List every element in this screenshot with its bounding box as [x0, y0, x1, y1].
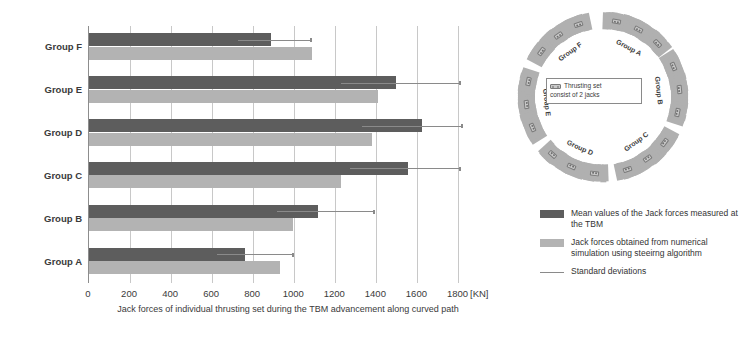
- x-tick-label: 1000: [283, 288, 304, 299]
- x-tick-label: 1600: [406, 288, 427, 299]
- ring-note-line2: consist of 2 jacks: [550, 91, 600, 98]
- chart-row: [89, 112, 478, 155]
- x-axis-title: Jack forces of individual thrusting set …: [88, 304, 488, 314]
- figure-root: Group FGroup EGroup DGroup CGroup BGroup…: [0, 0, 742, 340]
- error-bar-standard-deviation: [277, 211, 376, 212]
- x-tick-label: 600: [203, 288, 219, 299]
- legend-item: Mean values of the Jack forces measured …: [540, 208, 740, 231]
- bar-simulation: [89, 218, 293, 231]
- ring-center-note: Thrusting set consist of 2 jacks: [546, 78, 642, 104]
- legend-swatch-icon: [540, 239, 564, 247]
- legend-item: Jack forces obtained from numerical simu…: [540, 237, 740, 260]
- legend-swatch-icon: [540, 210, 564, 218]
- chart-row: [89, 197, 478, 240]
- bar-simulation: [89, 90, 378, 103]
- chart-row: [89, 155, 478, 198]
- ring-note-line1: Thrusting set: [564, 82, 602, 89]
- chart-legend: Mean values of the Jack forces measured …: [540, 208, 740, 283]
- legend-label: Standard deviations: [571, 266, 646, 277]
- x-tick-label: 1400: [365, 288, 386, 299]
- category-axis-labels: Group FGroup EGroup DGroup CGroup BGroup…: [0, 26, 88, 283]
- error-bar-standard-deviation: [217, 254, 295, 255]
- legend-swatch-icon: [540, 272, 564, 273]
- category-label: Group F: [45, 41, 82, 52]
- jack-pair-icon: [550, 84, 561, 89]
- category-label: Group E: [45, 84, 82, 95]
- x-tick-label: 1800: [447, 288, 468, 299]
- error-bar-standard-deviation: [350, 168, 461, 169]
- error-bar-standard-deviation: [238, 40, 311, 41]
- x-tick-label: 400: [162, 288, 178, 299]
- plot-area: [88, 26, 478, 283]
- x-axis-unit-label: [KN]: [470, 288, 488, 299]
- chart-row: [89, 69, 478, 112]
- legend-item: Standard deviations: [540, 266, 740, 277]
- chart-row: [89, 26, 478, 69]
- x-tick-label: 200: [121, 288, 137, 299]
- bar-simulation: [89, 261, 280, 274]
- legend-label: Jack forces obtained from numerical simu…: [571, 237, 740, 260]
- x-tick-label: 1200: [324, 288, 345, 299]
- legend-label: Mean values of the Jack forces measured …: [571, 208, 740, 231]
- category-label: Group B: [44, 213, 82, 224]
- category-label: Group C: [44, 170, 82, 181]
- error-bar-standard-deviation: [341, 83, 461, 84]
- category-label: Group D: [44, 127, 82, 138]
- x-tick-label: 800: [244, 288, 260, 299]
- thrusting-group-ring-diagram: Group AGroup BGroup CGroup DGroup EGroup…: [508, 8, 698, 193]
- bar-simulation: [89, 133, 372, 146]
- x-tick-label: 0: [85, 288, 90, 299]
- category-label: Group A: [44, 256, 82, 267]
- x-axis-tick-labels: 020040060080010001200140016001800: [88, 288, 508, 302]
- error-bar-standard-deviation: [362, 126, 463, 127]
- chart-row: [89, 240, 478, 283]
- bar-simulation: [89, 175, 341, 188]
- bar-chart: Group FGroup EGroup DGroup CGroup BGroup…: [0, 0, 500, 340]
- bar-simulation: [89, 47, 312, 60]
